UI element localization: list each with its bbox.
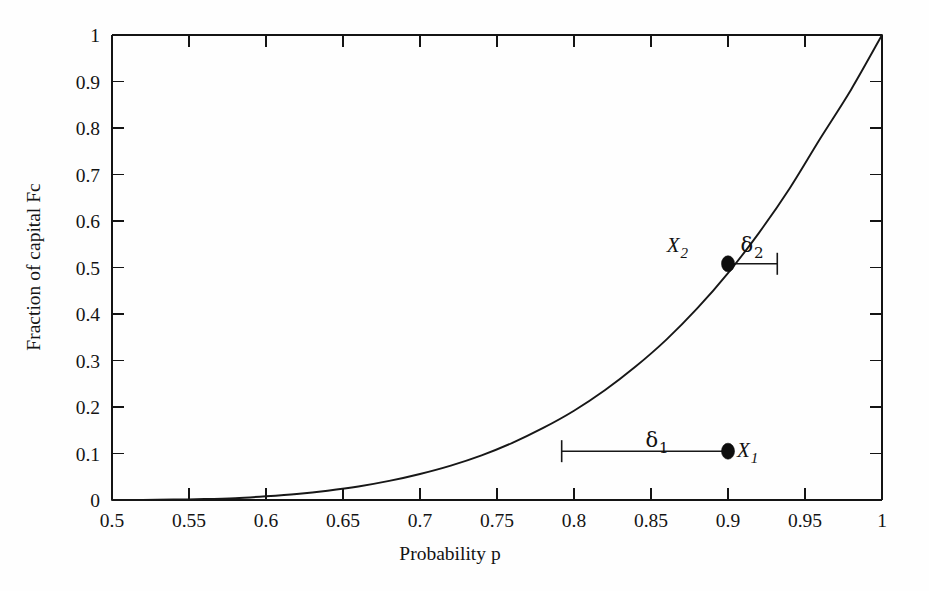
- y-tick-label: 0.6: [76, 211, 101, 232]
- x1-base-text: X: [736, 438, 751, 462]
- point-x1-marker[interactable]: [722, 443, 735, 459]
- x-tick-label: 0.75: [480, 510, 514, 531]
- y-tick-label: 0.2: [76, 397, 100, 418]
- y-tick-label: 0.7: [76, 165, 101, 186]
- x-tick-label: 0.95: [788, 510, 822, 531]
- x-tick-label: 0.7: [408, 510, 433, 531]
- x-axis-title: Probability p: [399, 543, 500, 564]
- point-x2-marker[interactable]: [722, 256, 735, 272]
- x-tick-label: 0.55: [172, 510, 206, 531]
- d1-sub-text: 1: [659, 439, 669, 457]
- y-axis-title: Fraction of capital Fc: [23, 183, 44, 351]
- x1-sub-text: 1: [751, 450, 759, 466]
- x-tick-label: 1: [877, 510, 887, 531]
- d2-base-text: δ: [740, 233, 753, 257]
- y-tick-label: 0: [90, 490, 100, 511]
- y-tick-label: 0.8: [76, 118, 100, 139]
- chart-canvas: 0.5 0.55 0.6 0.65 0.7 0.75 0.8 0.85 0.9 …: [0, 0, 929, 591]
- x-tick-label: 0.6: [254, 510, 279, 531]
- d1-base-text: δ: [645, 428, 658, 452]
- x2-sub-text: 2: [681, 245, 689, 261]
- x-tick-label: 0.85: [634, 510, 668, 531]
- y-tick-label: 1: [90, 25, 100, 46]
- y-tick-label: 0.3: [76, 351, 100, 372]
- x2-base-text: X: [666, 233, 681, 257]
- y-tick-label: 0.9: [76, 72, 100, 93]
- y-tick-label: 0.1: [76, 444, 100, 465]
- x-tick-label: 0.8: [562, 510, 586, 531]
- y-tick-label: 0.4: [76, 304, 101, 325]
- d2-sub-text: 2: [754, 244, 764, 262]
- x-tick-label: 0.5: [100, 510, 124, 531]
- x-tick-label: 0.65: [326, 510, 360, 531]
- y-tick-label: 0.5: [76, 258, 100, 279]
- x-tick-label: 0.9: [716, 510, 740, 531]
- figure-background: [0, 0, 929, 591]
- figure-root: 0.5 0.55 0.6 0.65 0.7 0.75 0.8 0.85 0.9 …: [0, 0, 929, 591]
